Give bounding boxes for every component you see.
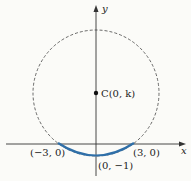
circle-diagram: y x C(0, k) (−3, 0) (3, 0) (0, −1) xyxy=(0,0,191,181)
center-point xyxy=(94,91,98,95)
x-axis-label: x xyxy=(181,145,187,156)
y-axis-arrow-icon xyxy=(94,5,99,12)
point-label-bottom: (0, −1) xyxy=(98,160,133,171)
center-label: C(0, k) xyxy=(101,88,135,99)
point-label-right: (3, 0) xyxy=(133,147,160,158)
y-axis-label: y xyxy=(101,3,108,14)
point-label-left: (−3, 0) xyxy=(30,147,65,158)
